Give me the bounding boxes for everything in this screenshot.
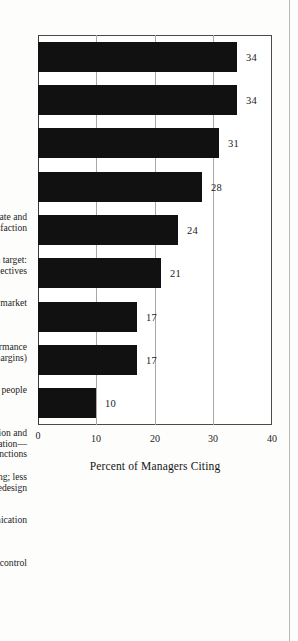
bar-slot[interactable]: 17 xyxy=(38,301,272,331)
value-tick-label: 30 xyxy=(209,432,219,443)
value-axis-title-text: Percent of Managers Citing xyxy=(90,460,221,472)
category-label: Improved communication xyxy=(0,515,27,526)
bar-value-label: 17 xyxy=(146,311,157,322)
bar-slot[interactable]: 21 xyxy=(38,258,272,288)
bar-value-label: 34 xyxy=(246,51,257,62)
bar-chart: 343431282421171710 010203040 Percent of … xyxy=(18,21,280,621)
bar-value-label: 21 xyxy=(170,267,181,278)
category-label: Fewer errors; less recycling; less redes… xyxy=(0,471,27,492)
bar[interactable] xyxy=(38,171,202,201)
bar[interactable] xyxy=(38,41,237,71)
bar-value-label: 31 xyxy=(228,137,239,148)
category-label: Better project control xyxy=(0,558,27,569)
bar[interactable] xyxy=(38,214,178,244)
bar[interactable] xyxy=(38,388,97,418)
category-label: Improved cooperation and coordination— p… xyxy=(0,428,27,460)
page-gutter-line xyxy=(289,0,290,641)
category-label: Improved product success rate and higher… xyxy=(0,211,27,232)
category-label: Faster to market xyxy=(0,298,27,309)
scanned-page: 343431282421171710 010203040 Percent of … xyxy=(0,0,298,641)
bar-value-label: 17 xyxy=(146,354,157,365)
bar[interactable] xyxy=(38,301,137,331)
value-axis-title: Percent of Managers Citing xyxy=(38,457,272,475)
bar[interactable] xyxy=(38,84,237,114)
category-label: Product developed on target: time, quali… xyxy=(0,255,27,276)
bars-layer: 343431282421171710 xyxy=(38,35,272,425)
bar-value-label: 10 xyxy=(106,397,117,408)
value-tick-label: 0 xyxy=(36,430,41,441)
bar-value-label: 28 xyxy=(211,181,222,192)
bar[interactable] xyxy=(38,258,161,288)
bar-slot[interactable]: 17 xyxy=(38,344,272,374)
bar-slot[interactable]: 31 xyxy=(38,128,272,158)
bar-slot[interactable]: 24 xyxy=(38,214,272,244)
bar-slot[interactable]: 10 xyxy=(38,388,272,418)
bar-slot[interactable]: 34 xyxy=(38,84,272,114)
bar[interactable] xyxy=(38,128,219,158)
bar-value-label: 34 xyxy=(246,94,257,105)
rotated-figure-stage: 343431282421171710 010203040 Percent of … xyxy=(18,21,280,621)
bar[interactable] xyxy=(38,344,137,374)
value-tick-label: 10 xyxy=(92,432,102,443)
category-label: A learning tool: educate our people xyxy=(0,385,27,396)
value-tick-label: 40 xyxy=(267,432,277,443)
bar-slot[interactable]: 34 xyxy=(38,41,272,71)
category-label: Improved profit performance (revenue and… xyxy=(0,341,27,362)
bar-value-label: 24 xyxy=(187,224,198,235)
value-tick-label: 20 xyxy=(150,432,160,443)
bar-slot[interactable]: 28 xyxy=(38,171,272,201)
